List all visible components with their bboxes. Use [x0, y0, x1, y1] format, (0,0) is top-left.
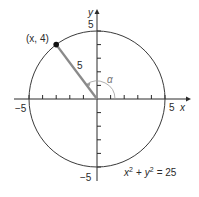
radius-segment — [56, 45, 97, 99]
point-label: (x, 4) — [26, 33, 49, 44]
radius-label: 5 — [77, 60, 83, 71]
x-axis-label: x — [179, 102, 186, 113]
y-axis-label: y — [87, 7, 94, 18]
y-axis-arrow-icon — [95, 9, 100, 14]
angle-label: α — [107, 74, 113, 85]
eq-sup1: 2 — [129, 166, 133, 173]
eq-plus: + — [136, 167, 142, 178]
x-axis-arrow-icon — [186, 97, 191, 102]
y-neg-tick-label: −5 — [80, 172, 92, 183]
y-pos-tick-label: 5 — [88, 19, 94, 30]
eq-sup2: 2 — [150, 166, 154, 173]
equation-label: x2+y2= 25 — [123, 166, 177, 178]
point-marker — [53, 42, 59, 48]
x-pos-tick-label: 5 — [169, 102, 175, 113]
eq-rhs: = 25 — [157, 167, 177, 178]
circle-diagram: (x, 4) 5 α y 5 −5 −5 5 x x2+y2= 25 — [0, 0, 199, 197]
x-neg-tick-label: −5 — [15, 103, 27, 114]
